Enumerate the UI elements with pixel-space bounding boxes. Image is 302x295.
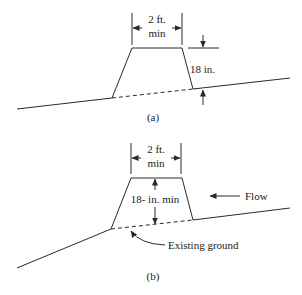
caption-a: (a) bbox=[147, 111, 160, 124]
existing-ground-dashed-b bbox=[111, 220, 193, 229]
width-label-b-line1: 2 ft. bbox=[147, 143, 165, 155]
ground-line-right-a bbox=[193, 78, 290, 89]
check-dam-diagram: 2 ft. min 18 in. (a) 2 ft. min 18- in. m… bbox=[0, 0, 302, 295]
ground-line-left-a bbox=[17, 98, 112, 109]
width-label-a-line1: 2 ft. bbox=[148, 13, 166, 25]
height-label-a: 18 in. bbox=[190, 63, 215, 75]
dam-trapezoid-a bbox=[112, 48, 193, 98]
ground-callout-arrow-icon bbox=[131, 231, 165, 245]
diagram-a: 2 ft. min 18 in. (a) bbox=[17, 13, 290, 124]
ground-line-right-b bbox=[193, 208, 290, 220]
ground-line-left-b bbox=[17, 229, 111, 268]
width-label-a-line2: min bbox=[148, 27, 166, 39]
width-label-b-line2: min bbox=[147, 157, 165, 169]
ground-label: Existing ground bbox=[168, 239, 239, 251]
diagram-b: 2 ft. min 18- in. min Flow Existing grou… bbox=[17, 143, 290, 283]
flow-label: Flow bbox=[245, 190, 268, 202]
caption-b: (b) bbox=[147, 270, 160, 283]
height-label-b: 18- in. min bbox=[131, 193, 180, 205]
existing-ground-dashed-a bbox=[112, 89, 193, 98]
